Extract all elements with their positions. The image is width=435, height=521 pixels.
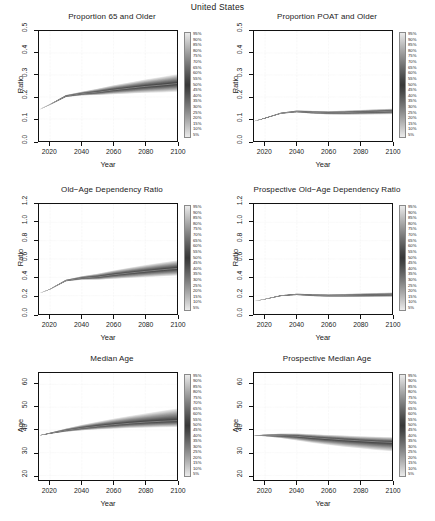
legend-proportion-poat-and-older: 95%90%85%80%75%70%65%60%55%50%45%40%35%3… <box>399 32 429 138</box>
legend-gradient-bar <box>184 374 191 477</box>
legend-gradient-bar <box>399 205 406 311</box>
x-tick-label: 2080 <box>347 321 375 328</box>
legend-label: 60% <box>408 71 416 75</box>
x-axis-label-prospective-median-age: Year <box>253 499 393 508</box>
x-tick-label: 2020 <box>35 321 63 328</box>
legend-label: 20% <box>408 116 416 120</box>
plot-area-prospective-old-age-dependency-ratio <box>253 203 393 315</box>
legend-label: 25% <box>193 284 201 288</box>
legend-label: 25% <box>193 450 201 454</box>
y-tickmark <box>249 476 253 477</box>
y-tickmark <box>34 119 38 120</box>
y-tickmark <box>249 74 253 75</box>
legend-label: 45% <box>408 428 416 432</box>
x-tickmark <box>393 315 394 319</box>
x-tickmark <box>264 481 265 485</box>
x-tickmark <box>49 481 50 485</box>
x-axis-label-median-age: Year <box>38 499 178 508</box>
legend-label: 30% <box>408 278 416 282</box>
legend-label: 60% <box>408 244 416 248</box>
panel-prospective-old-age-dependency-ratio: Prospective Old−Age Dependency Ratio0.00… <box>221 185 433 353</box>
y-tickmark <box>34 406 38 407</box>
x-tick-label: 2020 <box>250 321 278 328</box>
x-tickmark <box>178 481 179 485</box>
y-tickmark <box>34 221 38 222</box>
figure-main-title: United States <box>0 2 435 12</box>
legend-label: 30% <box>408 105 416 109</box>
legend-label: 85% <box>193 43 201 47</box>
legend-label: 40% <box>408 267 416 271</box>
legend-label: 50% <box>193 83 201 87</box>
legend-label: 80% <box>193 222 201 226</box>
x-tick-label: 2020 <box>35 148 63 155</box>
legend-median-age: 95%90%85%80%75%70%65%60%55%50%45%40%35%3… <box>184 374 214 477</box>
legend-label-list: 95%90%85%80%75%70%65%60%55%50%45%40%35%3… <box>193 32 211 138</box>
legend-label: 35% <box>408 272 416 276</box>
legend-label: 15% <box>193 461 201 465</box>
y-tick-label: 0.4 <box>21 42 28 58</box>
y-tickmark <box>34 315 38 316</box>
x-tick-label: 2020 <box>250 487 278 494</box>
y-tick-label: 0.0 <box>236 132 243 148</box>
panel-title-prospective-old-age-dependency-ratio: Prospective Old−Age Dependency Ratio <box>221 185 433 194</box>
legend-label: 55% <box>408 77 416 81</box>
legend-label: 85% <box>408 216 416 220</box>
y-tick-label: 1.2 <box>21 193 28 209</box>
x-tick-label: 2020 <box>35 487 63 494</box>
y-tickmark <box>34 383 38 384</box>
plot-area-prospective-median-age <box>253 372 393 481</box>
panel-median-age: Median Age203040506020202040206020802100… <box>6 354 218 519</box>
x-tick-label: 2040 <box>67 487 95 494</box>
legend-prospective-old-age-dependency-ratio: 95%90%85%80%75%70%65%60%55%50%45%40%35%3… <box>399 205 429 311</box>
y-tick-label: 1.0 <box>236 211 243 227</box>
legend-label: 15% <box>408 122 416 126</box>
y-tick-label: 20 <box>21 466 28 482</box>
y-tickmark <box>249 315 253 316</box>
y-tickmark <box>34 203 38 204</box>
y-tickmark <box>34 142 38 143</box>
x-tickmark <box>145 481 146 485</box>
x-tickmark <box>81 315 82 319</box>
legend-label-list: 95%90%85%80%75%70%65%60%55%50%45%40%35%3… <box>408 374 426 477</box>
legend-label-list: 95%90%85%80%75%70%65%60%55%50%45%40%35%3… <box>193 205 211 311</box>
legend-label: 30% <box>193 278 201 282</box>
x-tickmark <box>178 142 179 146</box>
legend-label: 80% <box>193 49 201 53</box>
legend-label: 35% <box>408 439 416 443</box>
legend-label: 45% <box>193 261 201 265</box>
x-tickmark <box>328 481 329 485</box>
x-axis-label-proportion-65-and-older: Year <box>38 160 178 169</box>
legend-prospective-median-age: 95%90%85%80%75%70%65%60%55%50%45%40%35%3… <box>399 374 429 477</box>
legend-label: 15% <box>193 122 201 126</box>
legend-label: 5% <box>408 133 414 137</box>
x-tickmark <box>360 481 361 485</box>
y-tick-label: 20 <box>236 466 243 482</box>
x-tick-label: 2080 <box>347 148 375 155</box>
legend-label: 70% <box>193 60 201 64</box>
y-tick-label: 1.2 <box>236 193 243 209</box>
x-tick-label: 2040 <box>282 487 310 494</box>
y-axis-label-prospective-median-age: Age <box>231 403 240 447</box>
legend-label: 25% <box>408 450 416 454</box>
y-tickmark <box>34 30 38 31</box>
x-tickmark <box>393 142 394 146</box>
y-tickmark <box>249 383 253 384</box>
legend-label: 70% <box>193 233 201 237</box>
panel-title-proportion-poat-and-older: Proportion POAT and Older <box>221 12 433 21</box>
y-axis-label-proportion-65-and-older: Ratio <box>16 63 25 107</box>
x-tickmark <box>49 142 50 146</box>
x-tickmark <box>296 481 297 485</box>
legend-label: 70% <box>408 401 416 405</box>
legend-label: 35% <box>408 99 416 103</box>
legend-label: 70% <box>193 401 201 405</box>
y-tickmark <box>249 406 253 407</box>
legend-label: 20% <box>193 289 201 293</box>
x-tick-label: 2080 <box>132 321 160 328</box>
panel-proportion-poat-and-older: Proportion POAT and Older0.00.10.20.30.4… <box>221 12 433 180</box>
legend-label: 75% <box>193 54 201 58</box>
plot-area-median-age <box>38 372 178 481</box>
legend-label: 15% <box>408 461 416 465</box>
y-axis-label-prospective-old-age-dependency-ratio: Ratio <box>231 236 240 280</box>
legend-label: 60% <box>408 412 416 416</box>
x-tick-label: 2060 <box>100 148 128 155</box>
